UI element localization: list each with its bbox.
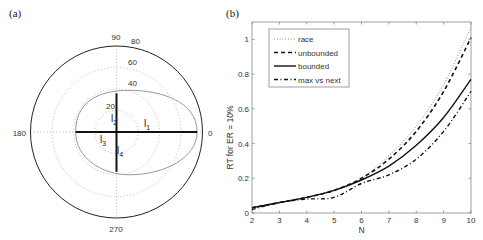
- x-tick-label: 10: [467, 216, 476, 225]
- x-tick-label: 5: [332, 216, 337, 225]
- panel-b-label: (b): [226, 7, 239, 20]
- y-tick-label: 0.2: [238, 174, 250, 183]
- angle-tick-label: 0: [208, 129, 213, 138]
- x-axis-label: N: [358, 225, 364, 235]
- line-chart: 234567891000.20.40.60.81NRT for ER = 10%…: [225, 22, 476, 235]
- y-tick-label: 0.4: [238, 140, 250, 149]
- x-tick-label: 8: [414, 216, 419, 225]
- x-tick-label: 6: [359, 216, 364, 225]
- angle-tick-label: 180: [13, 129, 27, 138]
- y-tick-label: 0: [245, 209, 250, 218]
- x-tick-label: 9: [441, 216, 446, 225]
- series-max-vs-next: [252, 91, 471, 209]
- segment-label-l3: l3: [100, 134, 106, 147]
- angle-tick-label: 270: [109, 225, 123, 234]
- x-tick-label: 3: [277, 216, 282, 225]
- legend: raceunboundedboundedmax vs next: [269, 29, 349, 87]
- y-axis-label: RT for ER = 10%: [225, 105, 235, 170]
- radial-tick-label: 20: [106, 102, 115, 111]
- radial-tick-label: 80: [131, 37, 140, 46]
- y-tick-label: 0.8: [238, 70, 250, 79]
- x-tick-label: 7: [387, 216, 392, 225]
- y-tick-label: 0.6: [238, 105, 250, 114]
- segment-label-l4: l4: [117, 145, 123, 158]
- angle-tick-label: 90: [112, 33, 121, 42]
- figure: (a) (b) l1l2l3l420406080090180270 234567…: [0, 0, 483, 240]
- radial-tick-label: 60: [128, 58, 137, 67]
- panel-a-label: (a): [9, 7, 22, 20]
- legend-entry: unbounded: [298, 49, 338, 58]
- legend-entry: bounded: [298, 62, 329, 71]
- x-tick-label: 4: [305, 216, 310, 225]
- y-tick-label: 1: [245, 35, 250, 44]
- radial-tick-label: 40: [128, 79, 137, 88]
- polar-plot: l1l2l3l420406080090180270: [13, 33, 213, 234]
- series-bounded: [252, 79, 471, 207]
- legend-entry: race: [298, 35, 314, 44]
- legend-entry: max vs next: [298, 76, 341, 85]
- segment-label-l1: l1: [144, 118, 150, 131]
- x-tick-label: 2: [250, 216, 255, 225]
